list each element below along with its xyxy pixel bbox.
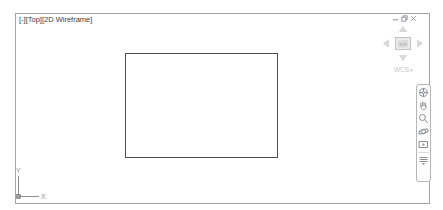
pan-hand-icon (421, 102, 426, 110)
navbar-customize-button[interactable] (417, 154, 430, 167)
navbar-showmotion-button[interactable] (417, 138, 430, 151)
close-icon[interactable] (410, 15, 417, 22)
viewcube-arrow-down-icon[interactable] (400, 56, 407, 61)
orbit-icon (418, 128, 428, 135)
document-window-buttons (392, 15, 417, 22)
viewcube-face-label: TOP (399, 42, 407, 47)
showmotion-icon (420, 142, 428, 148)
navigation-bar (416, 84, 431, 182)
navbar-pan-button[interactable] (417, 99, 430, 112)
wcs-dropdown[interactable]: WCS (394, 66, 410, 73)
model-space-viewport[interactable]: [-][Top][2D Wireframe] TOP WCS ▾ (15, 13, 430, 204)
viewport-controls: [-][Top][2D Wireframe] (19, 15, 92, 24)
viewport-menu-control[interactable]: [-] (19, 15, 26, 24)
ucs-icon: Y X (16, 164, 52, 204)
ucs-y-label: Y (16, 167, 21, 174)
navbar-full-navigation-wheel-button[interactable] (417, 86, 430, 99)
customize-menu-icon (420, 158, 427, 166)
drawn-rectangle[interactable] (125, 53, 278, 158)
ucs-x-label: X (41, 193, 46, 200)
minimize-icon[interactable] (392, 15, 399, 22)
navigation-wheel-icon (420, 89, 428, 97)
viewcube: TOP WCS ▾ (382, 25, 424, 75)
autocad-drawing-area: [-][Top][2D Wireframe] TOP WCS ▾ (0, 0, 443, 210)
viewcube-arrow-up-icon[interactable] (400, 27, 407, 32)
zoom-magnifier-icon (420, 115, 428, 123)
viewport-view-control[interactable]: [Top] (26, 15, 42, 24)
wcs-dropdown-arrow-icon[interactable]: ▾ (410, 67, 413, 73)
ucs-origin-marker (17, 195, 21, 199)
restore-icon[interactable] (401, 15, 408, 22)
navbar-separator (418, 152, 429, 153)
viewcube-arrow-right-icon[interactable] (418, 40, 423, 47)
navbar-orbit-button[interactable] (417, 125, 430, 138)
viewport-visual-style-control[interactable]: [2D Wireframe] (42, 15, 92, 24)
viewcube-arrow-left-icon[interactable] (384, 40, 389, 47)
navbar-zoom-button[interactable] (417, 112, 430, 125)
